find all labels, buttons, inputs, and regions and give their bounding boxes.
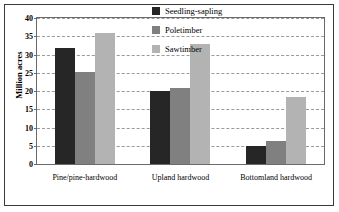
y-tick-label-20: 20 (25, 87, 33, 96)
legend-label: Poletimber (165, 25, 202, 35)
y-tick-label-35: 35 (25, 32, 33, 41)
x-tick-label: Pine/pine-hardwood (52, 173, 117, 182)
legend-swatch-icon (152, 45, 160, 53)
legend-label: Seedling-sapling (165, 6, 222, 16)
bar-group: Bottomland hardwood (228, 18, 324, 164)
y-tick-label-40: 40 (25, 14, 33, 23)
legend-item: Sawtimber (152, 44, 222, 54)
y-tick-label-25: 25 (25, 68, 33, 77)
bar-group: Pine/pine-hardwood (37, 18, 133, 164)
y-tick-label-30: 30 (25, 50, 33, 59)
legend-item: Seedling-sapling (152, 6, 222, 16)
legend-label: Sawtimber (165, 44, 202, 54)
legend-swatch-icon (152, 7, 160, 15)
bar (266, 141, 286, 164)
y-tick-label-0: 0 (29, 160, 33, 169)
gridline-0 (37, 164, 324, 165)
bar (150, 91, 170, 164)
bar (246, 146, 266, 164)
bar (286, 97, 306, 164)
bar (75, 72, 95, 164)
y-tick-label-10: 10 (25, 123, 33, 132)
bar (55, 48, 75, 164)
y-axis-title: Million acres (14, 20, 24, 130)
x-tick-label: Bottomland hardwood (240, 173, 312, 182)
x-tick-label: Upland hardwood (152, 173, 210, 182)
legend-swatch-icon (152, 26, 160, 34)
y-tick-label-15: 15 (25, 105, 33, 114)
chart-legend: Seedling-saplingPoletimberSawtimber (152, 6, 222, 63)
legend-item: Poletimber (152, 25, 222, 35)
bar-chart-figure: Million acres 0510152025303540 Pine/pine… (0, 0, 339, 212)
bar (170, 88, 190, 164)
bar (95, 33, 115, 164)
y-tick-label-5: 5 (29, 141, 33, 150)
